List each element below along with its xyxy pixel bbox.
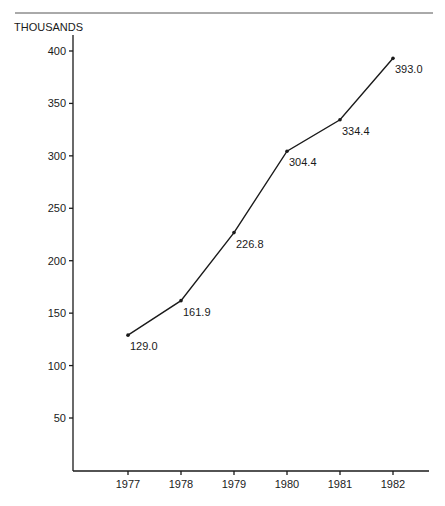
data-point [285, 149, 289, 153]
x-tick-label: 1979 [222, 478, 246, 490]
data-label: 304.4 [289, 156, 317, 168]
data-point [338, 118, 342, 122]
x-tick-label: 1978 [169, 478, 193, 490]
x-tick-label: 1982 [381, 478, 405, 490]
x-tick-label: 1980 [275, 478, 299, 490]
y-axis-ticks: 50100150200250300350400 [48, 45, 73, 424]
data-label: 334.4 [342, 125, 370, 137]
x-axis-ticks: 197719781979198019811982 [116, 471, 405, 490]
line-chart: THOUSANDS 50100150200250300350400 197719… [0, 0, 445, 506]
y-tick-label: 350 [48, 97, 66, 109]
x-tick-label: 1977 [116, 478, 140, 490]
y-tick-label: 200 [48, 255, 66, 267]
data-label: 393.0 [395, 63, 423, 75]
x-tick-label: 1981 [328, 478, 352, 490]
data-point [126, 333, 130, 337]
data-label: 226.8 [236, 238, 264, 250]
y-axis-unit-label: THOUSANDS [14, 21, 83, 33]
y-tick-label: 300 [48, 150, 66, 162]
y-tick-label: 50 [54, 412, 66, 424]
y-tick-label: 250 [48, 202, 66, 214]
data-line [128, 58, 393, 335]
y-tick-label: 100 [48, 360, 66, 372]
y-tick-label: 150 [48, 307, 66, 319]
data-label: 129.0 [130, 340, 158, 352]
y-tick-label: 400 [48, 45, 66, 57]
data-point [391, 57, 395, 61]
data-point [179, 299, 183, 303]
data-point [232, 231, 236, 235]
data-label: 161.9 [183, 306, 211, 318]
